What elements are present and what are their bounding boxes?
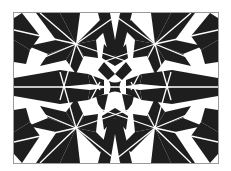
geometric-star-pattern — [0, 0, 231, 171]
